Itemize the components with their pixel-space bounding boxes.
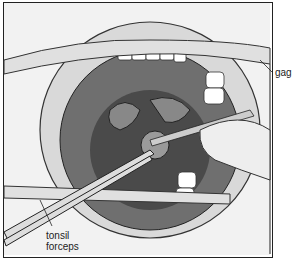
forceps-label-line1: tonsil	[46, 231, 69, 241]
tonsillectomy-illustration	[0, 0, 302, 264]
forceps-label-line2: forceps	[46, 242, 79, 252]
gag-label: gag	[275, 68, 292, 78]
